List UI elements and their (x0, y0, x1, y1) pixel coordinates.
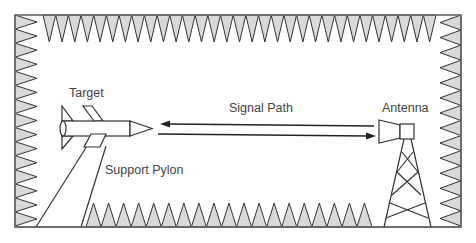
signal-path-arrows (158, 121, 376, 140)
absorber-cone (357, 203, 372, 227)
absorber-cone (94, 15, 107, 42)
absorber-cone (15, 85, 37, 99)
absorber-cone (206, 203, 221, 227)
absorber-cone (157, 15, 170, 42)
anechoic-chamber-diagram (0, 0, 476, 243)
absorber-cone (15, 142, 37, 156)
absorber-cone (86, 203, 101, 227)
absorber-cone (440, 45, 461, 60)
absorber-cone (15, 128, 37, 142)
absorber-cone (440, 181, 461, 196)
absorber-cone (322, 15, 335, 42)
absorber-cone (440, 30, 461, 45)
absorber-cone (191, 203, 206, 227)
absorber-cone (15, 170, 37, 184)
absorber-cone (440, 211, 461, 226)
absorber-cone (440, 105, 461, 120)
absorber-cone (284, 15, 297, 42)
absorber-cone (15, 113, 37, 127)
absorber-cone (220, 15, 233, 42)
absorber-cone (347, 15, 360, 42)
absorber-cone (15, 43, 37, 57)
target-label: Target (69, 86, 104, 100)
absorber-cone (398, 15, 411, 42)
absorber-cone (15, 71, 37, 85)
absorber-cone (68, 15, 81, 42)
absorber-cone (327, 203, 342, 227)
antenna-horn-icon (379, 120, 414, 143)
absorber-cone (297, 203, 312, 227)
absorber-cone (440, 90, 461, 105)
absorber-cone (440, 15, 461, 30)
absorber-cone (15, 29, 37, 43)
absorber-cone (271, 15, 284, 42)
absorber-cone (15, 184, 37, 198)
absorber-cone (15, 198, 37, 212)
absorber-cone (282, 203, 297, 227)
absorber-cone (15, 212, 37, 226)
absorber-cone (132, 15, 145, 42)
absorber-cone (43, 15, 56, 42)
absorber-left (15, 15, 37, 226)
absorber-cone (440, 196, 461, 211)
absorber-cone (106, 15, 119, 42)
absorber-cone (56, 15, 69, 42)
antenna-label: Antenna (382, 101, 429, 115)
absorber-cone (15, 57, 37, 71)
absorber-cone (131, 203, 146, 227)
absorber-cone (144, 15, 157, 42)
absorber-cone (411, 15, 424, 42)
absorber-cone (335, 15, 348, 42)
absorber-cone (15, 99, 37, 113)
absorber-cone (221, 203, 236, 227)
absorber-cone (440, 136, 461, 151)
absorber-cone (176, 203, 191, 227)
absorber-cone (440, 121, 461, 136)
absorber-cone (146, 203, 161, 227)
absorber-cone (246, 15, 259, 42)
absorber-cone (440, 166, 461, 181)
absorber-bottom (86, 203, 372, 227)
absorber-cone (312, 203, 327, 227)
absorber-cone (101, 203, 116, 227)
absorber-cone (15, 156, 37, 170)
absorber-cone (237, 203, 252, 227)
signal-path-label: Signal Path (229, 101, 293, 115)
absorber-cone (252, 203, 267, 227)
absorber-cone (297, 15, 310, 42)
absorber-cone (170, 15, 183, 42)
absorber-top (43, 15, 436, 42)
absorber-cone (161, 203, 176, 227)
support-pylon-label: Support Pylon (105, 163, 184, 177)
absorber-cone (116, 203, 131, 227)
absorber-right (440, 15, 461, 226)
target-missile-icon (60, 106, 152, 149)
absorber-cone (119, 15, 132, 42)
absorber-cone (342, 203, 357, 227)
absorber-cone (195, 15, 208, 42)
absorber-cone (267, 203, 282, 227)
absorber-cone (440, 75, 461, 90)
absorber-cone (81, 15, 94, 42)
absorber-cone (233, 15, 246, 42)
absorber-cone (182, 15, 195, 42)
absorber-cone (440, 151, 461, 166)
absorber-cone (259, 15, 272, 42)
absorber-cone (360, 15, 373, 42)
absorber-cone (440, 60, 461, 75)
absorber-cone (309, 15, 322, 42)
absorber-cone (385, 15, 398, 42)
absorber-cone (373, 15, 386, 42)
absorber-cone (15, 15, 37, 29)
absorber-cone (208, 15, 221, 42)
antenna-tower-icon (384, 139, 431, 227)
absorber-cone (423, 15, 436, 42)
